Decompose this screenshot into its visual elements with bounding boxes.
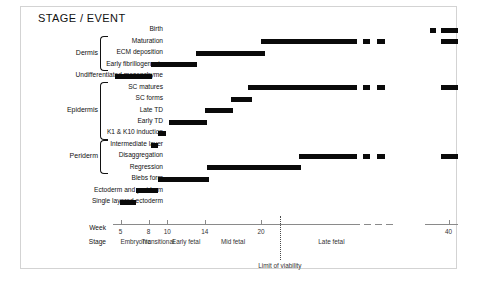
event-bar [363, 39, 370, 44]
limit-of-viability-line [280, 216, 281, 260]
event-bar [299, 154, 357, 159]
event-bar [441, 85, 458, 90]
event-bar [196, 51, 265, 56]
event-bar [205, 108, 233, 113]
group-brace [100, 140, 108, 175]
stage-label: Late fetal [318, 238, 344, 245]
axis-tick-label: 14 [201, 228, 208, 235]
group-name: Epidermis [40, 106, 98, 113]
group-brace [100, 82, 108, 140]
event-bar [363, 85, 370, 90]
group-brace [100, 36, 108, 71]
event-bar [377, 85, 385, 90]
event-bar [115, 74, 153, 79]
stage-label: Transitional [142, 238, 175, 245]
axis-tick [449, 220, 450, 225]
event-bar [207, 165, 301, 170]
axis-tick [167, 220, 168, 225]
event-bar [158, 177, 209, 182]
event-bar [151, 143, 159, 148]
event-bar [377, 39, 385, 44]
axis-tick [205, 220, 206, 225]
stage-label: Mid fetal [221, 238, 245, 245]
event-bar [441, 154, 458, 159]
event-bar [136, 188, 159, 193]
event-bar [261, 39, 357, 44]
limit-of-viability-label: Limit of viability [258, 262, 301, 269]
axis-tick-label: 5 [119, 228, 123, 235]
event-bar [430, 28, 436, 33]
group-name: Periderm [40, 152, 98, 159]
event-bar [441, 39, 458, 44]
axis-stage-name: Stage [46, 238, 106, 245]
axis-tick [261, 220, 262, 225]
event-bar [151, 62, 198, 67]
axis-tick-label: 10 [164, 228, 171, 235]
axis-line [425, 224, 458, 225]
axis-break-dash [375, 224, 382, 225]
week-axis: 5810142040EmbryonicTransitionalEarly fet… [113, 224, 458, 225]
event-bar [231, 97, 252, 102]
gantt-plot-area [113, 26, 458, 218]
event-bar [248, 85, 357, 90]
event-bar [363, 154, 370, 159]
axis-break-dash [386, 224, 393, 225]
axis-tick-label: 8 [147, 228, 151, 235]
axis-tick-label: 20 [258, 228, 265, 235]
axis-week-name: Week [46, 224, 106, 231]
event-bar [120, 200, 136, 205]
axis-tick-label: 40 [445, 228, 452, 235]
axis-tick [121, 220, 122, 225]
axis-break-dash [364, 224, 371, 225]
event-bar [377, 154, 385, 159]
event-bar [158, 131, 166, 136]
stage-label: Early fetal [172, 238, 200, 245]
axis-line [113, 224, 360, 225]
event-bar [169, 120, 207, 125]
event-bar [441, 28, 458, 33]
group-name: Dermis [40, 49, 98, 56]
axis-tick [149, 220, 150, 225]
